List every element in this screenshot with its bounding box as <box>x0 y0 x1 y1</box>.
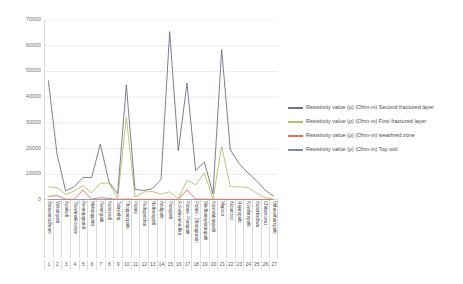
x-axis-label: Tiruvanaikoorum <box>73 201 78 234</box>
x-index-8: 8 <box>105 260 114 270</box>
x-label-cell: Mudhanayakanpatti <box>200 200 209 258</box>
x-axis-label: Mudhanayakanpatti <box>203 201 208 240</box>
x-label-cell: A.Kalaiyamudhur <box>174 200 183 258</box>
legend-label: Resistivity value (ρ) (Ohm-m) Top soil <box>306 146 397 153</box>
y-tick-60000: 60000 <box>26 43 41 48</box>
series-line <box>48 32 273 197</box>
x-label-cell: Kamalakanpatti <box>209 200 218 258</box>
x-label-cell: Kurukkadavu <box>252 200 261 258</box>
x-axis-label: Kummadi <box>107 201 112 220</box>
x-axis-label: Parapatti <box>168 201 173 219</box>
x-label-cell: Amarajapundi <box>79 200 88 258</box>
y-tick-0: 0 <box>38 197 41 202</box>
legend-color-swatch <box>288 107 303 108</box>
x-index-7: 7 <box>96 260 105 270</box>
x-index-2: 2 <box>53 260 62 270</box>
x-axis-label: Andipatti <box>159 201 164 218</box>
y-tick-70000: 70000 <box>26 17 41 22</box>
x-axis-label: Vellampatti <box>55 201 60 223</box>
x-label-cell: Vellampatti <box>53 200 62 258</box>
x-axis-label: Talayuthu <box>116 201 121 220</box>
x-label-cell: Pudupatchur <box>139 200 148 258</box>
x-label-cell: Mettuappatti <box>87 200 96 258</box>
x-index-12: 12 <box>139 260 148 270</box>
x-index-1: 1 <box>44 260 53 270</box>
legend-label: Resistivity value (ρ) (Ohm-m) weathred z… <box>306 132 415 139</box>
x-index-9: 9 <box>113 260 122 270</box>
legend-item[interactable]: Resistivity value (ρ) (Ohm-m) Top soil <box>288 146 460 153</box>
x-axis-label: Palani - Dharapuram <box>194 201 199 242</box>
legend-color-swatch <box>288 121 303 122</box>
x-index-26: 26 <box>261 260 270 270</box>
x-label-cell: Kizamoor <box>226 200 235 258</box>
legend-label: Resistivity value (ρ) (Ohm-m) Second fra… <box>306 104 434 111</box>
legend-item[interactable]: Resistivity value (ρ) (Ohm-m) Second fra… <box>288 104 460 111</box>
series-line <box>48 117 273 199</box>
x-index-20: 20 <box>209 260 218 270</box>
x-index-23: 23 <box>235 260 244 270</box>
x-label-cell: Pulampatti <box>96 200 105 258</box>
x-index-16: 16 <box>174 260 183 270</box>
x-label-cell: Tiruvanaikoorum <box>70 200 79 258</box>
x-axis-label: Chitamcevu <box>263 201 268 225</box>
y-tick-30000: 30000 <box>26 120 41 125</box>
x-label-cell: Vithreethampatti <box>269 200 278 258</box>
x-axis-label: Rajampatti <box>237 201 242 222</box>
x-index-22: 22 <box>226 260 235 270</box>
resistivity-line-chart: 010000200003000040000500006000070000 Bal… <box>0 0 463 284</box>
series-lines <box>44 20 278 200</box>
x-index-4: 4 <box>70 260 79 270</box>
x-index-27: 27 <box>269 260 278 270</box>
x-label-cell: Ayakudi <box>61 200 70 258</box>
x-index-21: 21 <box>217 260 226 270</box>
x-axis-label: Amarajapundi <box>81 201 86 229</box>
x-label-cell: Parapatti <box>165 200 174 258</box>
x-index-17: 17 <box>183 260 192 270</box>
x-axis-label: Kowilampatti <box>246 201 251 226</box>
plot-area: 010000200003000040000500006000070000 <box>44 20 278 200</box>
x-label-cell: Andipatti <box>157 200 166 258</box>
x-index-6: 6 <box>87 260 96 270</box>
x-axis-label: Mapoor <box>220 201 225 216</box>
x-axis-label: Kamalakanpatti <box>211 201 216 232</box>
x-label-cell: Rajampatti <box>235 200 244 258</box>
x-index-5: 5 <box>79 260 88 270</box>
x-axis-label: Palani <box>133 201 138 213</box>
legend-color-swatch <box>288 149 303 150</box>
x-index-15: 15 <box>165 260 174 270</box>
chart-legend: Resistivity value (ρ) (Ohm-m) Second fra… <box>288 104 460 160</box>
y-tick-50000: 50000 <box>26 69 41 74</box>
x-index-14: 14 <box>157 260 166 270</box>
x-index-25: 25 <box>252 260 261 270</box>
x-index-18: 18 <box>191 260 200 270</box>
x-axis-label: Vithreethampatti <box>271 201 276 234</box>
x-axis-label: Balasamudhram <box>47 201 52 234</box>
legend-label: Resistivity value (ρ) (Ohm-m) First frac… <box>306 118 426 125</box>
legend-color-swatch <box>288 135 303 136</box>
x-label-cell: Palani - Dharapuram <box>191 200 200 258</box>
x-axis-label: Palani- Parapatti <box>185 201 190 234</box>
y-tick-40000: 40000 <box>26 95 41 100</box>
x-index-13: 13 <box>148 260 157 270</box>
y-tick-20000: 20000 <box>26 146 41 151</box>
x-label-cell: Talayuthu <box>113 200 122 258</box>
x-axis-label: Ayakudi <box>64 201 69 217</box>
x-axis-label: Thoppampatti <box>125 201 130 229</box>
legend-item[interactable]: Resistivity value (ρ) (Ohm-m) First frac… <box>288 118 460 125</box>
x-index-11: 11 <box>131 260 140 270</box>
x-label-cell: Mapoor <box>217 200 226 258</box>
x-axis-label: Neikarapatti <box>151 201 156 225</box>
x-label-cell: Kummadi <box>105 200 114 258</box>
legend-item[interactable]: Resistivity value (ρ) (Ohm-m) weathred z… <box>288 132 460 139</box>
x-label-cell: Palani <box>131 200 140 258</box>
x-label-cell: Thoppampatti <box>122 200 131 258</box>
x-axis-label: Kizamoor <box>229 201 234 220</box>
x-index-19: 19 <box>200 260 209 270</box>
x-label-cell: Kowilampatti <box>243 200 252 258</box>
x-index-24: 24 <box>243 260 252 270</box>
x-axis-category-labels: BalasamudhramVellampattiAyakudiTiruvanai… <box>44 200 278 258</box>
x-index-10: 10 <box>122 260 131 270</box>
x-label-cell: Palani- Parapatti <box>183 200 192 258</box>
y-tick-10000: 10000 <box>26 172 41 177</box>
x-label-cell: Neikarapatti <box>148 200 157 258</box>
